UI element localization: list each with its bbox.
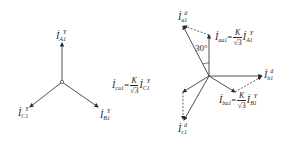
label-ib1-y: İB1Y — [100, 108, 110, 121]
angle-arc — [203, 63, 209, 64]
equation-iaa1: İaa1=K√3İA1Y — [215, 28, 253, 47]
label-ib1-d: İb1d — [264, 68, 273, 81]
fraction-k-sqrt3: K√3 — [130, 76, 138, 95]
label-ia1-y: İA1Y — [56, 29, 66, 42]
label-ic1-d: İc1d — [178, 122, 187, 135]
angle-label-30deg: 30° — [195, 43, 208, 53]
label-ia1-d: İa1d — [178, 10, 187, 23]
origin-node — [60, 80, 63, 83]
phasor-diagram-figure: İA1Y İC1Y İB1Y İa1d İb1d İc1d 30° İaa1=K… — [0, 0, 286, 143]
phasor-lines — [0, 0, 286, 143]
phasor-c1-y-arrow — [30, 82, 62, 107]
phasor-ba1-arrow — [209, 76, 235, 92]
label-ic1-y: İC1Y — [18, 106, 29, 119]
equation-ica1: İca1=K√3İC1Y — [112, 76, 150, 95]
phasor-c1-d-arrow — [184, 76, 209, 120]
equation-iba1: İba1=K√3İB1Y — [219, 91, 257, 110]
fraction-k-sqrt3: K√3 — [233, 28, 241, 47]
phasor-a-dashed-arrow — [184, 26, 209, 35]
phasor-b-dashed-arrow — [235, 77, 261, 92]
fraction-k-sqrt3: K√3 — [237, 91, 245, 110]
left-phasor-star — [30, 43, 98, 107]
phasor-b1-y-arrow — [62, 82, 98, 107]
phasor-ca1-arrow — [183, 76, 209, 92]
